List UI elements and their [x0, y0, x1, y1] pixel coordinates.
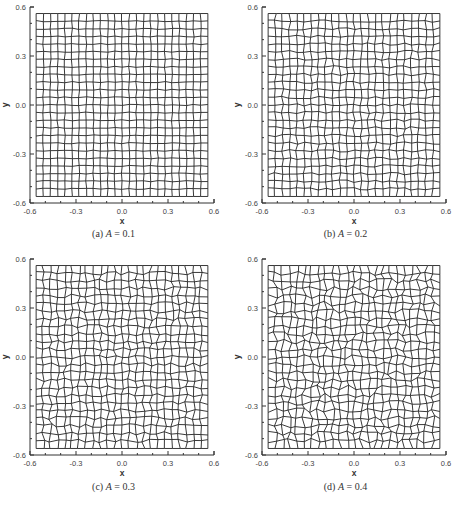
y-tick-label: -0.6	[13, 199, 26, 208]
mesh-line-vertical	[142, 266, 145, 449]
tick-labels: -0.6-0.30.00.30.6-0.6-0.30.00.30.6	[13, 3, 219, 216]
mesh-line-vertical	[156, 266, 159, 449]
caption-prefix: (b)	[324, 228, 336, 239]
mesh-line-horizontal	[36, 409, 208, 412]
y-tick-label: 0.0	[248, 101, 258, 110]
y-tick-label: -0.6	[13, 451, 26, 460]
mesh-line-vertical	[366, 266, 370, 449]
x-tick-label: -0.3	[70, 459, 83, 468]
mesh-line-vertical	[186, 14, 187, 197]
mesh-line-horizontal	[36, 271, 208, 274]
mesh-line-horizontal	[268, 355, 440, 360]
mesh-line-horizontal	[36, 173, 208, 174]
mesh-line-horizontal	[36, 309, 208, 312]
mesh-line-vertical	[338, 266, 342, 449]
x-axis-title: x	[352, 468, 357, 478]
x-tick-label: -0.3	[302, 459, 315, 468]
mesh-line-vertical	[352, 266, 356, 449]
mesh-line-horizontal	[268, 127, 440, 129]
mesh-line-horizontal	[268, 104, 440, 106]
x-tick-label: -0.6	[24, 207, 37, 216]
mesh-line-horizontal	[36, 21, 208, 22]
mesh-line-vertical	[373, 266, 377, 449]
y-axis-title: y	[232, 354, 242, 359]
x-tick-label: 0.3	[163, 459, 173, 468]
caption-a: (a) A = 0.1	[0, 228, 227, 239]
y-axis-title: y	[0, 102, 10, 107]
mesh-line-vertical	[99, 266, 102, 449]
mesh-line-vertical	[382, 14, 384, 197]
y-tick-label: -0.3	[245, 402, 258, 411]
x-tick-label: -0.3	[302, 207, 315, 216]
mesh-line-horizontal	[268, 58, 440, 60]
mesh-line-horizontal	[268, 339, 440, 343]
mesh-line-vertical	[85, 266, 88, 449]
mesh-line-vertical	[389, 14, 391, 197]
y-tick-label: 0.6	[16, 255, 26, 264]
y-tick-label: 0.6	[16, 3, 26, 12]
mesh-line-vertical	[193, 14, 194, 197]
mesh-line-horizontal	[268, 66, 440, 68]
mesh-line-horizontal	[268, 347, 440, 351]
mesh-line-horizontal	[36, 439, 208, 442]
mesh-line-vertical	[395, 266, 399, 449]
mesh-line-vertical	[296, 14, 298, 197]
mesh-line-vertical	[424, 266, 428, 449]
mesh-line-vertical	[310, 14, 312, 197]
x-tick-label: 0.3	[163, 207, 173, 216]
x-tick-label: 0.6	[441, 459, 451, 468]
mesh-line-vertical	[70, 266, 73, 449]
mesh-plot-c: -0.6-0.30.00.30.6-0.6-0.30.00.30.6xy	[0, 252, 227, 505]
mesh-plot-d: -0.6-0.30.00.30.6-0.6-0.30.00.30.6xy	[232, 252, 455, 505]
mesh-line-vertical	[273, 266, 277, 449]
mesh-line-horizontal	[268, 393, 440, 398]
mesh-line-horizontal	[268, 111, 440, 113]
mesh-line-horizontal	[268, 378, 440, 383]
mesh-line-horizontal	[268, 172, 440, 174]
x-tick-label: -0.3	[70, 207, 83, 216]
mesh-line-vertical	[416, 266, 420, 449]
caption-prefix: (a)	[92, 228, 103, 239]
panel-c: -0.6-0.30.00.30.6-0.6-0.30.00.30.6xy (c)…	[0, 252, 227, 505]
mesh-line-horizontal	[268, 271, 440, 275]
mesh-line-horizontal	[268, 81, 440, 83]
mesh-line-horizontal	[268, 301, 440, 306]
mesh-line-vertical	[409, 266, 413, 449]
mesh-line-horizontal	[36, 393, 208, 396]
mesh-line-horizontal	[36, 325, 208, 328]
caption-prefix: (c)	[92, 481, 103, 492]
mesh-line-horizontal	[268, 408, 440, 412]
mesh-line-horizontal	[268, 416, 440, 420]
mesh-line-vertical	[170, 266, 173, 449]
mesh-line-vertical	[288, 266, 292, 449]
mesh-line-horizontal	[268, 286, 440, 291]
y-axis-title: y	[0, 354, 10, 359]
mesh-line-vertical	[324, 14, 326, 197]
panel-b: -0.6-0.30.00.30.6-0.6-0.30.00.30.6xy (b)…	[232, 0, 455, 253]
mesh-line-horizontal	[36, 279, 208, 282]
y-tick-label: 0.3	[248, 304, 258, 313]
mesh-line-horizontal	[268, 28, 440, 30]
mesh-line-horizontal	[268, 89, 440, 91]
mesh-line-horizontal	[268, 385, 440, 390]
mesh-line-vertical	[135, 266, 138, 449]
mesh-line-vertical	[410, 14, 412, 197]
caption-value: = 0.3	[112, 481, 135, 492]
caption-c: (c) A = 0.3	[0, 481, 227, 492]
mesh-line-horizontal	[268, 317, 440, 321]
mesh-line-vertical	[92, 266, 95, 449]
y-tick-label: -0.3	[13, 150, 26, 159]
mesh-line-horizontal	[268, 157, 440, 159]
mesh-line-vertical	[149, 266, 152, 449]
caption-value: = 0.4	[344, 481, 367, 492]
x-axis-title: x	[120, 468, 125, 478]
mesh-line-horizontal	[36, 340, 208, 343]
mesh-line-vertical	[129, 14, 130, 197]
mesh-line-horizontal	[36, 287, 208, 291]
y-tick-label: -0.3	[13, 402, 26, 411]
mesh-line-horizontal	[268, 332, 440, 336]
x-tick-label: 0.0	[349, 207, 359, 216]
mesh-line-vertical	[396, 14, 398, 197]
caption-value: = 0.2	[344, 228, 367, 239]
y-tick-label: -0.6	[245, 199, 258, 208]
